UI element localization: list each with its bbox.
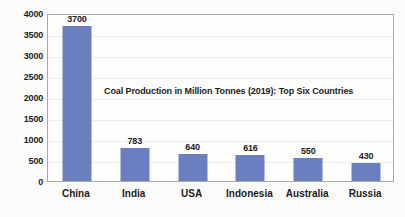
bar[interactable]	[120, 148, 149, 181]
y-axis-tick-label: 1500	[0, 114, 43, 124]
bar[interactable]	[236, 155, 265, 181]
x-axis: ChinaIndiaUSAIndonesiaAustraliaRussia	[47, 188, 394, 212]
chart-title: Coal Production in Million Tonnes (2019)…	[104, 86, 353, 96]
bar-group: 3700	[48, 15, 106, 181]
x-axis-category-label: China	[62, 188, 90, 199]
bar-value-label: 783	[128, 136, 142, 146]
y-axis-tick-label: 4000	[0, 9, 43, 19]
y-axis-tick-label: 500	[0, 156, 43, 166]
bar-value-label: 550	[301, 146, 315, 156]
bar-value-label: 3700	[67, 14, 86, 24]
x-axis-category-label: Indonesia	[226, 188, 273, 199]
y-axis-tick-label: 3500	[0, 30, 43, 40]
bar-group: 640	[164, 15, 222, 181]
bar-value-label: 616	[243, 143, 257, 153]
y-axis-tick-label: 2000	[0, 93, 43, 103]
bar-value-label: 430	[359, 151, 373, 161]
bar[interactable]	[62, 26, 91, 181]
bar[interactable]	[178, 154, 207, 181]
x-axis-category-label: Russia	[349, 188, 382, 199]
bar-group: 783	[106, 15, 164, 181]
x-axis-category-label: Australia	[286, 188, 329, 199]
y-axis-tick-label: 1000	[0, 135, 43, 145]
y-axis-tick-label: 3000	[0, 51, 43, 61]
bar[interactable]	[352, 163, 381, 181]
bar-group: 550	[279, 15, 337, 181]
y-axis-tick-label: 0	[0, 177, 43, 187]
plot-area: 3700783640616550430	[47, 14, 394, 182]
y-axis-tick-label: 2500	[0, 72, 43, 82]
bar-value-label: 640	[185, 142, 199, 152]
bar-group: 430	[337, 15, 395, 181]
bar-group: 616	[222, 15, 280, 181]
x-axis-category-label: India	[122, 188, 145, 199]
bar-chart-screenshot: 05001000150020002500300035004000 3700783…	[0, 0, 405, 217]
y-axis: 05001000150020002500300035004000	[0, 14, 43, 182]
bar[interactable]	[294, 158, 323, 181]
x-axis-category-label: USA	[181, 188, 202, 199]
